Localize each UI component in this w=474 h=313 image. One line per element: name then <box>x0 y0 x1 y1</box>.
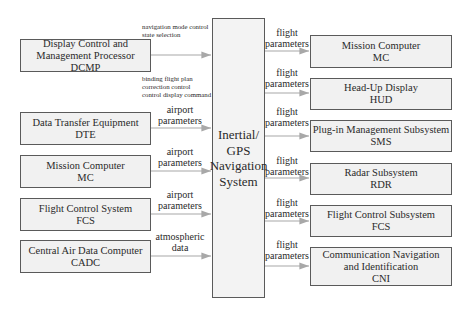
box-abbr: CADC <box>71 257 100 269</box>
central-navigation-system-box: Inertial/ GPS Navigation System <box>212 18 265 298</box>
label-out-rdr: flightparameters <box>265 155 309 177</box>
output-box-hud: Head-Up Display HUD <box>310 78 452 110</box>
output-box-sms: Plug-in Management Subsystem SMS <box>310 120 452 152</box>
box-abbr: FCS <box>76 215 95 227</box>
box-line: Flight Control Subsystem <box>327 209 435 221</box>
box-abbr: SMS <box>370 136 391 148</box>
output-box-fcs: Flight Control Subsystem FCS <box>310 205 452 237</box>
box-abbr: CNI <box>372 273 390 285</box>
label-out-sms: flightparameters <box>265 106 309 128</box>
box-line: Display Control and <box>43 38 128 50</box>
input-box-dcmp: Display Control and Management Processor… <box>20 39 151 72</box>
center-line: GPS <box>210 143 268 159</box>
label-out-fcs: flightparameters <box>265 197 309 219</box>
output-box-rdr: Radar Subsystem RDR <box>310 163 452 195</box>
box-abbr: FCS <box>372 221 391 233</box>
box-abbr: DTE <box>75 129 95 141</box>
input-box-fcs: Flight Control System FCS <box>20 198 151 231</box>
box-line: Mission Computer <box>46 160 124 172</box>
box-line: Head-Up Display <box>344 82 418 94</box>
box-abbr: HUD <box>370 94 393 106</box>
box-line: Data Transfer Equipment <box>32 117 138 129</box>
output-box-cni: Communication Navigation and Identificat… <box>310 247 452 286</box>
output-box-mc: Mission Computer MC <box>310 35 452 68</box>
box-abbr: DCMP <box>71 62 101 74</box>
box-line: Central Air Data Computer <box>28 245 142 257</box>
label-cadc: atmospheric data <box>150 231 210 253</box>
box-line: Communication Navigation <box>323 249 440 261</box>
center-line: Inertial/ <box>210 127 268 143</box>
input-box-mc: Mission Computer MC <box>20 155 151 188</box>
label-out-mc: flightparameters <box>265 27 309 49</box>
label-out-cni: flightparameters <box>265 239 309 261</box>
box-abbr: MC <box>77 172 93 184</box>
box-abbr: MC <box>373 52 389 64</box>
label-out-hud: flightparameters <box>265 67 309 89</box>
center-line: Navigation <box>210 158 268 174</box>
label-dcmp-above: navigation mode control state selection <box>142 23 208 39</box>
input-box-dte: Data Transfer Equipment DTE <box>20 112 151 145</box>
label-dte: airport parameters <box>155 104 205 126</box>
box-line: Flight Control System <box>39 203 132 215</box>
label-fcs-in: airport parameters <box>155 189 205 211</box>
label-dcmp-below: binding flight plan correction control c… <box>142 75 211 99</box>
label-mc-in: airport parameters <box>155 146 205 168</box>
center-line: System <box>210 174 268 190</box>
input-box-cadc: Central Air Data Computer CADC <box>20 240 151 273</box>
box-line: Radar Subsystem <box>344 167 417 179</box>
box-line: and Identification <box>344 261 418 273</box>
box-line: Mission Computer <box>342 40 420 52</box>
box-abbr: RDR <box>370 179 392 191</box>
box-line: Management Processor <box>36 50 134 62</box>
box-line: Plug-in Management Subsystem <box>313 124 450 136</box>
